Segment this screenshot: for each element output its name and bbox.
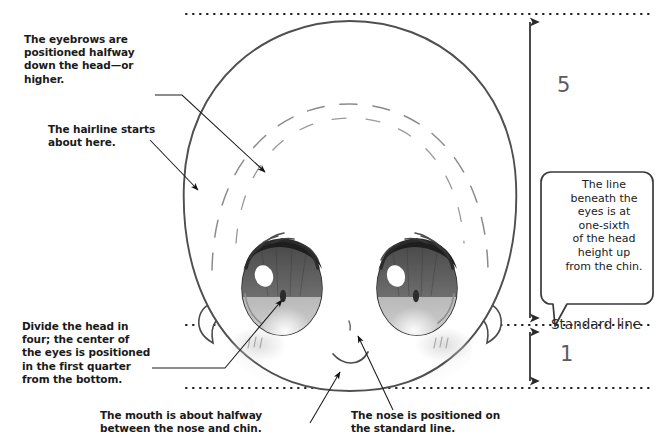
hairline-note-text: The hairline starts about here. (48, 123, 208, 149)
head-group (184, 21, 517, 398)
dimension-label-5: 5 (557, 73, 570, 97)
standard-line-label: Standard line (551, 316, 641, 332)
mouth-note-text: The mouth is about halfway between the n… (100, 409, 330, 435)
nose-note-text: The nose is positioned on the standard l… (351, 409, 561, 435)
figure-canvas: The eyebrows are positioned halfway down… (0, 0, 663, 448)
divide-note-text: Divide the head in four; the center of t… (22, 320, 187, 386)
dimension-label-1: 1 (560, 342, 573, 366)
eyebrows-note-text: The eyebrows are positioned halfway down… (24, 33, 174, 86)
eye-line-callout-text: The line beneath the eyes is at one-sixt… (551, 178, 657, 273)
